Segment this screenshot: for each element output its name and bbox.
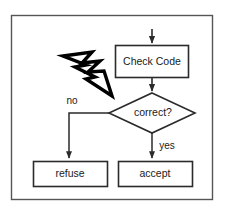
node-refuse[interactable]: refuse [34,162,108,187]
flowchart-diagram: Check Code correct? no yes refuse [0,0,227,212]
node-check-code-label: Check Code [123,55,181,67]
edge-label-no: no [66,95,78,106]
node-accept[interactable]: accept [119,162,193,187]
edge-label-yes: yes [159,140,175,151]
flowchart-screenshot: Check Code correct? no yes refuse [0,0,227,212]
node-accept-label: accept [140,167,171,179]
node-correct-label: correct? [134,106,172,118]
node-refuse-label: refuse [55,167,84,179]
node-check-code[interactable]: Check Code [116,46,189,78]
